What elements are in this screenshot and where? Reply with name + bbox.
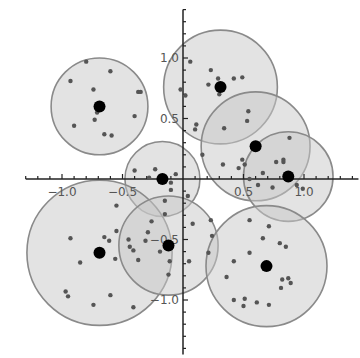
data-point xyxy=(128,245,132,249)
data-point xyxy=(247,218,251,222)
data-point xyxy=(240,75,244,79)
data-point xyxy=(163,199,167,203)
data-point xyxy=(131,248,135,252)
data-point xyxy=(247,251,251,255)
data-point xyxy=(63,289,67,293)
data-point xyxy=(114,203,118,207)
data-point xyxy=(206,251,210,255)
data-point xyxy=(68,79,72,83)
data-point xyxy=(91,303,95,307)
x-tick-label: −1.0 xyxy=(47,185,76,199)
data-point xyxy=(267,303,271,307)
data-point xyxy=(295,183,299,187)
data-point xyxy=(143,239,147,243)
data-point xyxy=(274,160,278,164)
centroid-marker-7 xyxy=(162,240,174,252)
data-point xyxy=(84,59,88,63)
data-point xyxy=(221,162,225,166)
data-point xyxy=(147,176,151,180)
y-tick-label: 0.5 xyxy=(160,112,179,126)
data-point xyxy=(188,59,192,63)
data-point xyxy=(167,259,171,263)
data-point xyxy=(280,277,284,281)
data-point xyxy=(224,275,228,279)
data-point xyxy=(149,219,153,223)
data-point xyxy=(166,272,170,276)
data-point xyxy=(132,168,136,172)
data-point xyxy=(210,234,214,238)
data-point xyxy=(232,298,236,302)
data-point xyxy=(187,259,191,263)
data-point xyxy=(286,276,290,280)
cluster-scatter-chart: −1.0−0.50.51.01.00.5−0.5−1.0 xyxy=(0,0,360,358)
data-point xyxy=(68,236,72,240)
data-point xyxy=(138,90,142,94)
x-tick-label: −0.5 xyxy=(108,185,137,199)
data-point xyxy=(279,286,283,290)
data-point xyxy=(183,93,187,97)
y-tick-label: 1.0 xyxy=(160,51,179,65)
data-point xyxy=(240,157,244,161)
data-point xyxy=(136,258,140,262)
data-point xyxy=(92,118,96,122)
data-point xyxy=(163,212,167,216)
data-point xyxy=(288,281,292,285)
data-point xyxy=(267,224,271,228)
data-point xyxy=(153,167,157,171)
data-point xyxy=(261,171,265,175)
data-point xyxy=(278,241,282,245)
data-point xyxy=(186,194,190,198)
data-point xyxy=(102,132,106,136)
data-point xyxy=(174,172,178,176)
data-point xyxy=(222,126,226,130)
data-point xyxy=(107,239,111,243)
data-point xyxy=(232,76,236,80)
data-point xyxy=(169,180,173,184)
centroid-marker-8 xyxy=(260,260,272,272)
data-point xyxy=(126,237,130,241)
data-point xyxy=(109,133,113,137)
data-point xyxy=(287,136,291,140)
data-point xyxy=(209,218,213,222)
data-point xyxy=(270,185,274,189)
centroid-marker-6 xyxy=(94,247,106,259)
data-point xyxy=(232,259,236,263)
data-point xyxy=(301,186,305,190)
data-point xyxy=(91,87,95,91)
data-point xyxy=(146,230,150,234)
centroid-marker-4 xyxy=(282,171,294,183)
data-point xyxy=(178,87,182,91)
data-point xyxy=(246,109,250,113)
data-point xyxy=(281,160,285,164)
data-point xyxy=(209,68,213,72)
data-point xyxy=(114,229,118,233)
data-point xyxy=(236,166,240,170)
data-point xyxy=(216,76,220,80)
data-point xyxy=(255,300,259,304)
data-point xyxy=(131,305,135,309)
centroid-marker-2 xyxy=(215,81,227,93)
data-point xyxy=(241,304,245,308)
data-point xyxy=(108,69,112,73)
x-tick-label: 0.5 xyxy=(234,185,253,199)
data-point xyxy=(256,183,260,187)
data-point xyxy=(66,294,70,298)
data-point xyxy=(247,177,251,181)
data-point xyxy=(243,162,247,166)
centroid-marker-3 xyxy=(250,140,262,152)
data-point xyxy=(158,249,162,253)
data-point xyxy=(190,222,194,226)
data-point xyxy=(245,119,249,123)
data-point xyxy=(108,293,112,297)
data-point xyxy=(243,297,247,301)
data-point xyxy=(261,236,265,240)
data-point xyxy=(194,122,198,126)
centroid-marker-5 xyxy=(156,173,168,185)
data-point xyxy=(169,188,173,192)
centroid-marker-1 xyxy=(94,100,106,112)
data-point xyxy=(193,127,197,131)
data-point xyxy=(102,235,106,239)
data-point xyxy=(72,124,76,128)
data-point xyxy=(284,245,288,249)
data-point xyxy=(132,114,136,118)
